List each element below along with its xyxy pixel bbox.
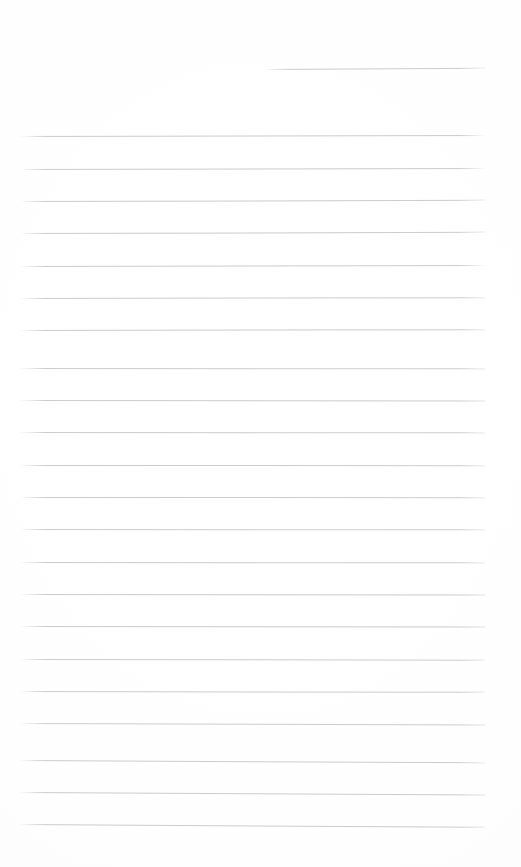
body-rule-19 [20, 723, 485, 726]
body-rule-22 [20, 824, 485, 828]
body-rule-10 [20, 432, 485, 433]
body-rule-14 [20, 562, 485, 563]
body-rule-2 [20, 168, 485, 170]
body-rule-21 [20, 792, 485, 795]
body-rule-6 [20, 297, 485, 299]
body-rule-8 [20, 368, 485, 369]
notebook-page [0, 0, 521, 867]
body-rule-4 [20, 232, 485, 234]
header-rule [265, 68, 485, 70]
body-rule-15 [20, 594, 485, 595]
paper-texture [0, 0, 521, 867]
body-rule-3 [20, 200, 485, 202]
body-rule-18 [20, 691, 485, 693]
body-rule-11 [20, 465, 485, 466]
body-rule-7 [20, 329, 485, 331]
body-rule-12 [20, 497, 485, 498]
writing-area [0, 0, 521, 867]
body-rule-20 [20, 760, 485, 763]
body-rule-5 [20, 265, 485, 267]
body-rule-1 [20, 135, 485, 137]
body-rule-17 [20, 659, 485, 661]
body-rule-13 [20, 529, 485, 530]
body-rule-16 [20, 626, 485, 627]
body-rule-9 [20, 400, 485, 401]
